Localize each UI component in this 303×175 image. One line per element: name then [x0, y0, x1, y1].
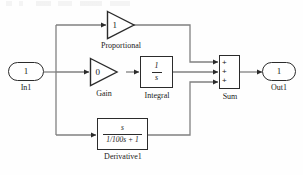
proportional-block[interactable]: 1	[106, 10, 136, 40]
derivative-block[interactable]: s 1/100s + 1	[97, 118, 148, 150]
integral-denominator: s	[152, 74, 161, 82]
gain-label: Gain	[84, 90, 124, 98]
sum-sign-3: +	[222, 77, 227, 85]
wire-derivative-to-sum	[148, 82, 218, 135]
output-port-block[interactable]: 1	[262, 62, 296, 81]
proportional-label: Proportional	[86, 42, 156, 50]
output-port-value: 1	[277, 67, 282, 76]
gain-value: 0	[89, 57, 106, 87]
integral-fraction: 1 s	[152, 62, 162, 83]
derivative-fraction: s 1/100s + 1	[103, 124, 142, 144]
sum-block[interactable]: + + +	[219, 55, 240, 89]
integral-block[interactable]: 1 s	[140, 56, 173, 88]
integral-numerator: 1	[152, 62, 162, 70]
sum-sign-2: +	[222, 68, 227, 76]
input-port-block[interactable]: 1	[8, 62, 44, 81]
gain-block[interactable]: 0	[89, 57, 119, 87]
sum-label: Sum	[212, 93, 248, 101]
input-port-label: In1	[8, 84, 44, 92]
sum-sign-1: +	[222, 59, 227, 67]
input-port-value: 1	[24, 67, 29, 76]
proportional-value: 1	[106, 10, 123, 40]
integral-label: Integral	[134, 92, 180, 100]
derivative-denominator: 1/100s + 1	[103, 136, 142, 144]
derivative-label: Derivative1	[90, 153, 156, 161]
output-port-label: Out1	[262, 84, 296, 92]
derivative-numerator: s	[118, 124, 127, 132]
block-diagram-canvas: 1 In1 1 Proportional 0 Gain 1 s Integral…	[0, 0, 303, 175]
